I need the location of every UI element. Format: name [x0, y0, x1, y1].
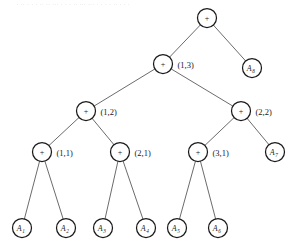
node-label-n11: +	[40, 148, 45, 157]
tree-node-n11[interactable]: +(1,1)	[33, 143, 73, 162]
tree-node-a3[interactable]: A3	[94, 219, 113, 238]
node-tag-n12: (1,2)	[101, 107, 117, 117]
edges-layer	[24, 25, 269, 220]
tree-node-a7[interactable]: A7	[266, 143, 285, 162]
node-subscript-a5: 5	[177, 228, 180, 234]
tree-edge-n12-to-n11	[49, 117, 80, 146]
node-label-root: +	[205, 14, 210, 23]
nodes-layer: ++(1,3)A8+(1,2)+(2,2)+(1,1)+(2,1)+(3,1)A…	[13, 9, 285, 238]
node-subscript-a8: 8	[252, 68, 255, 74]
node-tag-n11: (1,1)	[57, 148, 73, 158]
binary-tree-diagram: . .. . . . .. .. ... . . . .. ... ... . …	[0, 0, 297, 249]
tree-node-a8[interactable]: A8	[243, 59, 262, 78]
node-label-n31: +	[196, 148, 201, 157]
tree-node-n22[interactable]: +(2,2)	[232, 102, 272, 121]
tree-edge-root-to-n13	[169, 25, 201, 58]
node-subscript-a4: 4	[146, 228, 149, 234]
tree-node-a2[interactable]: A2	[57, 219, 76, 238]
tree-node-a1[interactable]: A1	[13, 219, 32, 238]
tree-edge-n13-to-n22	[171, 69, 234, 107]
tree-node-n21[interactable]: +(2,1)	[111, 143, 151, 162]
node-subscript-a3: 3	[103, 228, 106, 234]
node-label-n12: +	[84, 107, 89, 116]
node-subscript-a7: 7	[275, 152, 278, 158]
node-label-n21: +	[118, 148, 123, 157]
node-tag-n31: (3,1)	[213, 148, 229, 158]
node-tag-n22: (2,2)	[256, 107, 272, 117]
tree-edge-n12-to-n21	[92, 118, 115, 145]
node-subscript-a6: 6	[218, 228, 221, 234]
tree-edge-n31-to-a6	[200, 161, 215, 220]
node-tag-n13: (1,3)	[178, 60, 194, 70]
node-tag-n21: (2,1)	[135, 148, 151, 158]
tree-edge-root-to-a8	[213, 25, 246, 62]
tree-node-root[interactable]: +	[198, 9, 217, 28]
tree-edge-n11-to-a1	[24, 161, 39, 220]
node-subscript-a2: 2	[66, 228, 69, 234]
tree-node-a4[interactable]: A4	[137, 219, 156, 238]
tree-edge-n21-to-a4	[123, 161, 143, 220]
tree-node-n31[interactable]: +(3,1)	[189, 143, 229, 162]
node-label-n22: +	[239, 107, 244, 116]
tree-edge-n22-to-a7	[247, 118, 270, 145]
node-subscript-a1: 1	[22, 228, 25, 234]
tree-node-a5[interactable]: A5	[168, 219, 187, 238]
tree-edge-n21-to-a3	[105, 161, 118, 219]
tree-node-a6[interactable]: A6	[209, 219, 228, 238]
tree-edge-n11-to-a2	[45, 161, 64, 220]
tree-edge-n13-to-n12	[94, 69, 156, 107]
tree-canvas: ++(1,3)A8+(1,2)+(2,2)+(1,1)+(2,1)+(3,1)A…	[0, 0, 297, 249]
tree-edge-n22-to-n31	[205, 117, 235, 146]
tree-edge-n31-to-a5	[179, 161, 195, 220]
node-label-n13: +	[161, 60, 166, 69]
